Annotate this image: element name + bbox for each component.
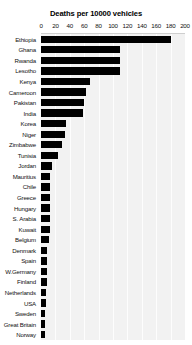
bar-row: Ghana xyxy=(0,45,192,56)
bar-jordan xyxy=(41,162,52,169)
category-label-rwanda: Rwanda xyxy=(0,57,39,64)
bar-row: Jordan xyxy=(0,161,192,172)
bar-cell xyxy=(41,234,185,245)
category-label-hungary: Hungary xyxy=(0,205,39,212)
bar-cell xyxy=(41,287,185,298)
category-label-lesotho: Lesotho xyxy=(0,67,39,74)
bar-usa xyxy=(41,299,46,306)
category-label-greece: Greece xyxy=(0,194,39,201)
bar-cell xyxy=(41,192,185,203)
bar-cell xyxy=(41,329,185,340)
category-label-ghana: Ghana xyxy=(0,46,39,53)
category-label-sweden: Sweden xyxy=(0,310,39,317)
x-tick-label-60: 60 xyxy=(81,22,87,29)
bar-cell xyxy=(41,97,185,108)
bar-cell xyxy=(41,266,185,277)
bar-cell xyxy=(41,245,185,256)
bar-row: S. Arabia xyxy=(0,213,192,224)
bar-cell xyxy=(41,308,185,319)
bar-row: Lesotho xyxy=(0,66,192,77)
bar-row: Korea xyxy=(0,118,192,129)
bar-row: Niger xyxy=(0,129,192,140)
bar-row: Chile xyxy=(0,182,192,193)
category-label-netherlands: Netherlands xyxy=(0,289,39,296)
category-label-jordan: Jordan xyxy=(0,162,39,169)
bar-norway xyxy=(41,331,45,338)
bar-spain xyxy=(41,257,47,264)
category-label-tunisia: Tunisia xyxy=(0,152,39,159)
x-tick-label-200: 200 xyxy=(180,22,190,29)
bar-rows: EthiopiaGhanaRwandaLesothoKenyaCameroonP… xyxy=(0,34,192,340)
category-label-kenya: Kenya xyxy=(0,78,39,85)
category-label-cameroon: Cameroon xyxy=(0,89,39,96)
bar-row: Spain xyxy=(0,256,192,267)
bar-row: Finland xyxy=(0,277,192,288)
bar-cell xyxy=(41,277,185,288)
bar-row: Tunisia xyxy=(0,150,192,161)
bar-row: Rwanda xyxy=(0,55,192,66)
bar-row: USA xyxy=(0,298,192,309)
bar-cell xyxy=(41,319,185,330)
bar-w-germany xyxy=(41,268,47,275)
x-tick-label-80: 80 xyxy=(95,22,101,29)
bar-denmark xyxy=(41,247,47,254)
bar-chile xyxy=(41,183,50,190)
bar-row: Netherlands xyxy=(0,287,192,298)
bar-row: Denmark xyxy=(0,245,192,256)
bar-row: Kuwait xyxy=(0,224,192,235)
bar-cell xyxy=(41,76,185,87)
bar-sweden xyxy=(41,310,45,317)
bar-kuwait xyxy=(41,226,50,233)
bar-greece xyxy=(41,194,50,201)
bar-netherlands xyxy=(41,289,46,296)
x-tick-label-0: 0 xyxy=(39,22,42,29)
x-tick-label-100: 100 xyxy=(108,22,118,29)
bar-row: Norway xyxy=(0,329,192,340)
x-axis-tick-labels: 020406080100120140160180200 xyxy=(41,22,185,32)
bar-cameroon xyxy=(41,88,86,95)
bar-mauritius xyxy=(41,173,50,180)
bar-row: Pakistan xyxy=(0,97,192,108)
bar-cell xyxy=(41,55,185,66)
category-label-mauritius: Mauritius xyxy=(0,173,39,180)
bar-cell xyxy=(41,161,185,172)
bar-row: Belgium xyxy=(0,234,192,245)
category-label-w-germany: W.Germany xyxy=(0,268,39,275)
category-label-chile: Chile xyxy=(0,183,39,190)
bar-zimbabwe xyxy=(41,141,62,148)
bar-row: Cameroon xyxy=(0,87,192,98)
bar-rwanda xyxy=(41,57,120,64)
bar-cell xyxy=(41,256,185,267)
bar-cell xyxy=(41,224,185,235)
bar-india xyxy=(41,109,83,116)
bar-cell xyxy=(41,298,185,309)
bar-cell xyxy=(41,118,185,129)
bar-row: Zimbabwe xyxy=(0,140,192,151)
bar-cell xyxy=(41,213,185,224)
bar-row: Ethiopia xyxy=(0,34,192,45)
x-tick-label-40: 40 xyxy=(67,22,73,29)
category-label-pakistan: Pakistan xyxy=(0,99,39,106)
category-label-usa: USA xyxy=(0,300,39,307)
category-label-s-arabia: S. Arabia xyxy=(0,215,39,222)
bar-hungary xyxy=(41,204,50,211)
bar-ethiopia xyxy=(41,36,171,43)
x-tick-label-160: 160 xyxy=(151,22,161,29)
category-label-niger: Niger xyxy=(0,131,39,138)
chart-title: Deaths per 10000 vehicles xyxy=(0,9,192,18)
bar-row: Greece xyxy=(0,192,192,203)
bar-cell xyxy=(41,45,185,56)
category-label-zimbabwe: Zimbabwe xyxy=(0,141,39,148)
category-label-india: India xyxy=(0,110,39,117)
category-label-spain: Spain xyxy=(0,257,39,264)
category-label-great-britain: Great Britain xyxy=(0,321,39,328)
x-tick-label-140: 140 xyxy=(137,22,147,29)
bar-cell xyxy=(41,129,185,140)
bar-cell xyxy=(41,182,185,193)
bar-s-arabia xyxy=(41,215,50,222)
bar-cell xyxy=(41,203,185,214)
bar-niger xyxy=(41,131,65,138)
bar-cell xyxy=(41,34,185,45)
bar-belgium xyxy=(41,236,49,243)
bar-kenya xyxy=(41,78,90,85)
